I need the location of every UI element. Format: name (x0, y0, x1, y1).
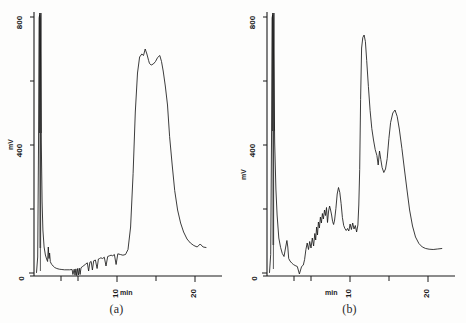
y-axis-title-b: mV (238, 163, 249, 181)
x-axis-title-a: min (120, 289, 132, 296)
panel-caption-a: (a) (0, 302, 233, 317)
panel-a: 800 400 0 mV 10 20 min (a) (0, 0, 233, 323)
x-tick-label-10-a: 10 (111, 282, 120, 300)
figure-chromatogram-pair: 800 400 0 mV 10 20 min (a) (0, 0, 466, 323)
y-tick-label-0-a: 0 (19, 267, 23, 285)
chromatogram-trace-a (37, 15, 207, 276)
y-tick-label-0-b: 0 (252, 267, 256, 285)
axes-b (262, 12, 455, 282)
panel-b: 800 400 0 mV 10 20 min (b) (233, 0, 466, 323)
x-tick-label-20-b: 20 (422, 282, 431, 300)
x-tick-label-10-b: 10 (344, 282, 353, 300)
chromatogram-trace-b (270, 15, 442, 274)
y-tick-label-800-a: 800 (13, 11, 26, 29)
axes-a (29, 12, 222, 282)
y-tick-label-800-b: 800 (246, 11, 259, 29)
y-tick-label-400-b: 400 (246, 139, 259, 157)
panel-caption-b: (b) (233, 302, 466, 317)
plot-area-a (0, 0, 233, 323)
y-axis-title-a: mV (5, 133, 16, 151)
x-axis-title-b: min (325, 289, 337, 296)
x-tick-label-20-a: 20 (189, 282, 198, 300)
plot-area-b (233, 0, 466, 323)
